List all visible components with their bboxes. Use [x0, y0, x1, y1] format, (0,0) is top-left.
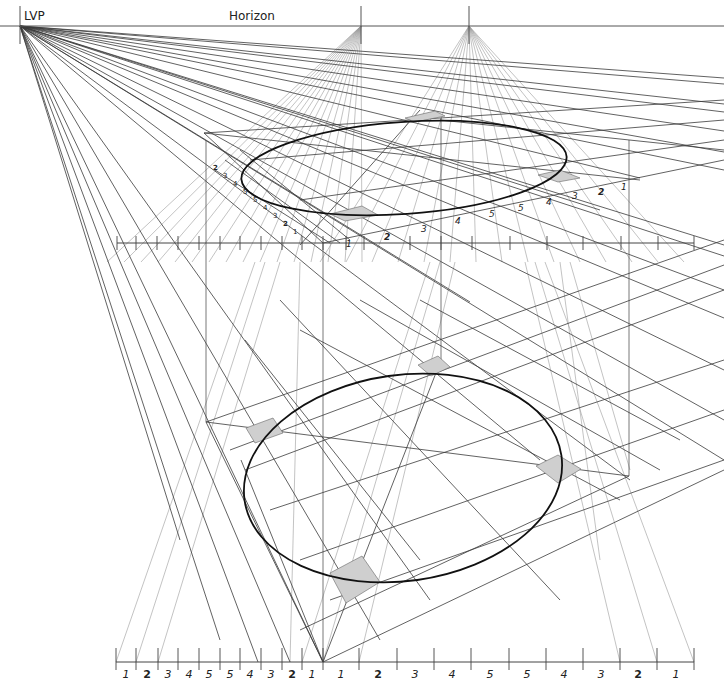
upper-plane-line — [323, 160, 724, 243]
scale-number: 4 — [546, 197, 552, 207]
lvp-ray — [20, 26, 724, 112]
scale-number: 5 — [489, 209, 495, 219]
vp2-ray — [124, 26, 361, 262]
lvp-ray — [20, 26, 724, 370]
projection-line — [302, 262, 430, 662]
scale-number: 4 — [186, 668, 193, 681]
lower-plane-line — [300, 410, 724, 560]
scale-number: 3 — [165, 668, 172, 681]
projection-line — [158, 262, 280, 662]
lower-plane-line — [330, 460, 724, 600]
vp3-ray — [469, 26, 606, 262]
horizon-label: Horizon — [229, 9, 275, 23]
lvp-ray — [20, 26, 600, 210]
scale-number: 2 — [384, 232, 390, 242]
vp2-ray — [361, 26, 362, 262]
scale-number: 2 — [283, 220, 288, 228]
scale-number: 1 — [293, 228, 297, 236]
vp3-ray — [469, 26, 632, 262]
scale-number: 3 — [412, 668, 419, 681]
scale-number: 3 — [598, 668, 605, 681]
scale-number: 1 — [346, 239, 352, 249]
scale-number: 5 — [243, 188, 247, 196]
lower-plane-line — [245, 340, 420, 560]
lvp-ray — [20, 26, 724, 104]
scale-number: 4 — [233, 180, 238, 188]
lower-plane-line — [323, 360, 441, 662]
projection-line — [323, 262, 440, 662]
projection-line — [116, 262, 255, 662]
shaded-quad — [330, 206, 378, 221]
scale-number: 1 — [309, 668, 316, 681]
vp2-ray — [107, 26, 361, 262]
vp3-ray — [469, 26, 476, 262]
scale-number: 1 — [673, 668, 680, 681]
scale-number: 4 — [263, 204, 268, 212]
lower-plane-line — [360, 300, 660, 470]
lvp-ray — [20, 26, 220, 640]
scale-number: 3 — [572, 191, 578, 201]
vp3-ray — [469, 26, 554, 262]
scale-number: 3 — [273, 212, 277, 220]
scale-number: 4 — [449, 668, 456, 681]
scale-number: 1 — [338, 668, 345, 681]
scale-number: 4 — [247, 668, 254, 681]
scale-number: 5 — [487, 668, 494, 681]
scale-number: 3 — [268, 668, 275, 681]
perspective-ellipse-diagram: 123455432123455432112345543211234554321 … — [0, 0, 724, 691]
scale-number: 3 — [223, 172, 227, 180]
lower-plane-line — [206, 240, 724, 422]
scale-number: 5 — [524, 668, 531, 681]
scale-number: 1 — [123, 668, 130, 681]
scale-number: 3 — [421, 224, 427, 234]
lvp-ray — [20, 26, 323, 662]
lvp-ray — [20, 26, 724, 290]
lower-plane-line — [241, 460, 323, 662]
lvp-ray — [20, 26, 724, 420]
diagram-canvas: 123455432123455432112345543211234554321 — [0, 0, 724, 691]
vp2-ray — [141, 26, 361, 262]
lvp-ray — [20, 26, 430, 600]
lower-plane-line — [323, 470, 724, 662]
scale-number: 5 — [253, 196, 257, 204]
scale-number: 2 — [374, 668, 382, 681]
scale-number: 2 — [143, 668, 151, 681]
vp3-ray — [398, 26, 469, 262]
lvp-ray — [20, 26, 380, 640]
dark-construction-lines — [20, 26, 724, 662]
lower-plane-line — [230, 265, 724, 450]
scale-number: 5 — [518, 203, 524, 213]
lvp-ray — [20, 26, 724, 170]
scale-number: 4 — [561, 668, 568, 681]
lvp-ray — [20, 26, 470, 302]
lower-plane-line — [300, 476, 629, 630]
lvp-ray — [20, 26, 180, 540]
scale-number: 2 — [634, 668, 642, 681]
lower-plane-line — [206, 422, 323, 662]
lvp-ray — [20, 26, 724, 131]
lvp-ray — [20, 26, 724, 152]
lvp-ray — [20, 26, 724, 256]
upper-plane-line — [300, 140, 724, 200]
scale-number: 5 — [227, 668, 234, 681]
projection-line — [570, 262, 630, 470]
scale-number: 1 — [621, 182, 627, 192]
scale-number: 5 — [206, 668, 213, 681]
scale-number: 2 — [288, 668, 296, 681]
lvp-ray — [20, 26, 258, 662]
scale-number: 4 — [455, 216, 461, 226]
scale-number: 2 — [598, 187, 604, 197]
lvp-label: LVP — [24, 9, 45, 23]
lower-plane-line — [280, 300, 560, 600]
scale-number: 2 — [213, 164, 218, 172]
lvp-ray — [20, 26, 724, 84]
